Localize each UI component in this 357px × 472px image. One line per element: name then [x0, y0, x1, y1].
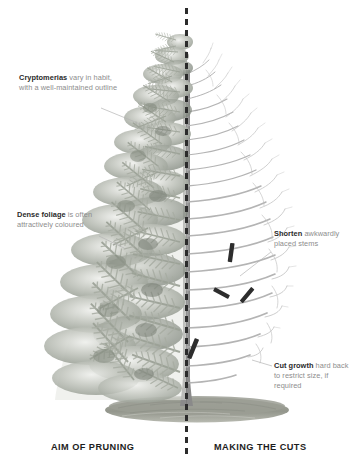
bare-branch-structure	[187, 43, 296, 383]
annotation-lead: Shorten	[274, 229, 302, 238]
cut-marks	[187, 243, 254, 359]
cut-mark-2	[213, 287, 230, 299]
caption-aim-of-pruning: AIM OF PRUNING	[51, 442, 134, 452]
annotation-cut-growth: Cut growth hard back to restrict size, i…	[274, 361, 354, 392]
annotation-cryptomerias: Cryptomerias vary in habit, with a well-…	[19, 73, 123, 93]
annotation-dense-foliage: Dense foliage is often attractively colo…	[17, 210, 121, 230]
cut-mark-1	[228, 243, 235, 262]
center-divider	[185, 8, 188, 456]
caption-making-the-cuts: MAKING THE CUTS	[214, 442, 307, 452]
annotation-lead: Dense foliage	[17, 210, 66, 219]
leader-cut-growth	[252, 360, 272, 366]
annotation-shorten-stems: Shorten awkwardly placed stems	[274, 229, 352, 249]
annotation-lead: Cut growth	[274, 361, 314, 370]
pruning-diagram: Cryptomerias vary in habit, with a well-…	[0, 0, 357, 472]
annotation-lead: Cryptomerias	[19, 73, 67, 82]
